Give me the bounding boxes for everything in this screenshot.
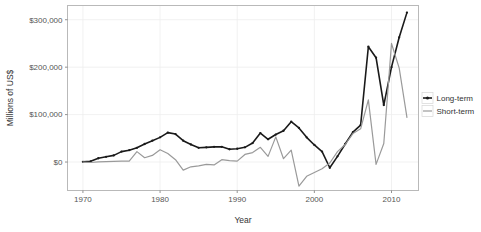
data-point bbox=[259, 132, 261, 134]
data-point bbox=[329, 167, 331, 169]
plot-panel-background bbox=[68, 6, 419, 191]
data-point bbox=[367, 46, 369, 48]
x-tick-label: 2000 bbox=[305, 195, 323, 204]
legend-label: Short-term bbox=[437, 107, 475, 116]
y-axis-title: Millions of US$ bbox=[5, 69, 15, 126]
x-tick-label: 1980 bbox=[151, 195, 169, 204]
data-point bbox=[197, 147, 199, 149]
legend-label: Long-term bbox=[437, 94, 474, 103]
x-tick-label: 1970 bbox=[74, 195, 92, 204]
data-point bbox=[406, 11, 408, 13]
data-point bbox=[97, 157, 99, 159]
y-tick-label: $0 bbox=[54, 158, 63, 167]
data-point bbox=[251, 142, 253, 144]
data-point bbox=[190, 143, 192, 145]
data-point bbox=[113, 154, 115, 156]
chart-container: $0$100,000$200,000$300,000 1970198019902… bbox=[0, 0, 481, 232]
data-point bbox=[383, 104, 385, 106]
data-point bbox=[275, 133, 277, 135]
y-tick-label: $100,000 bbox=[29, 110, 63, 119]
legend-item-short-term[interactable]: Short-term bbox=[422, 106, 475, 117]
legend-item-long-term[interactable]: Long-term bbox=[422, 93, 473, 104]
y-tick-label: $200,000 bbox=[29, 63, 63, 72]
y-tick-label: $300,000 bbox=[29, 16, 63, 25]
data-point bbox=[128, 149, 130, 151]
data-point bbox=[321, 150, 323, 152]
data-point bbox=[213, 146, 215, 148]
data-point bbox=[390, 66, 392, 68]
data-point bbox=[205, 146, 207, 148]
data-point bbox=[282, 130, 284, 132]
data-point bbox=[182, 140, 184, 142]
data-point bbox=[336, 155, 338, 157]
x-tick-label: 2010 bbox=[383, 195, 401, 204]
data-point bbox=[174, 133, 176, 135]
line-chart-svg: $0$100,000$200,000$300,000 1970198019902… bbox=[0, 0, 481, 232]
x-tick-label: 1990 bbox=[228, 195, 246, 204]
data-point bbox=[290, 121, 292, 123]
data-point bbox=[143, 143, 145, 145]
data-point bbox=[236, 148, 238, 150]
data-point bbox=[120, 150, 122, 152]
x-axis-title: Year bbox=[234, 215, 251, 225]
data-point bbox=[167, 131, 169, 133]
data-point bbox=[228, 148, 230, 150]
data-point bbox=[375, 57, 377, 59]
data-point bbox=[221, 146, 223, 148]
data-point bbox=[305, 136, 307, 138]
data-point bbox=[244, 146, 246, 148]
data-point bbox=[313, 144, 315, 146]
data-point bbox=[159, 136, 161, 138]
data-point bbox=[151, 140, 153, 142]
data-point bbox=[298, 127, 300, 129]
data-point bbox=[105, 156, 107, 158]
data-point bbox=[267, 138, 269, 140]
data-point bbox=[398, 36, 400, 38]
data-point bbox=[136, 147, 138, 149]
